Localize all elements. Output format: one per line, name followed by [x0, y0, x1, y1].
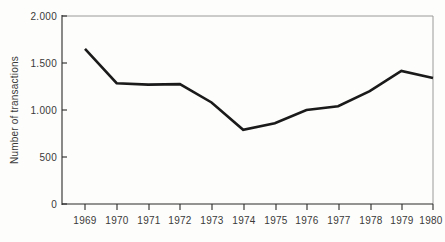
y-tick-label-1500: 1.500	[30, 58, 57, 69]
x-tick-label-1977: 1977	[327, 215, 351, 226]
x-tick-label-1978: 1978	[359, 215, 383, 226]
x-tick-label-1974: 1974	[232, 215, 256, 226]
y-tick-label-1000: 1.000	[30, 105, 57, 116]
y-axis-title: Number of transactions	[9, 56, 20, 164]
x-tick-label-1979: 1979	[390, 215, 414, 226]
x-tick-label-1972: 1972	[168, 215, 192, 226]
transactions-line-series	[85, 49, 433, 130]
y-tick-label-0: 0	[51, 199, 57, 210]
line-chart: 2.000 1.500 1.000 500 0 Number of transa…	[0, 0, 445, 242]
x-tick-label-1973: 1973	[200, 215, 224, 226]
x-tick-label-1971: 1971	[137, 215, 161, 226]
x-tick-label-1976: 1976	[295, 215, 319, 226]
x-tick-label-1970: 1970	[105, 215, 129, 226]
plot-frame	[62, 16, 433, 204]
y-axis-ticks	[62, 16, 67, 204]
y-axis: 2.000 1.500 1.000 500 0 Number of transa…	[9, 11, 67, 210]
y-tick-label-500: 500	[39, 152, 57, 163]
x-axis-ticks	[85, 204, 433, 210]
y-tick-label-2000: 2.000	[30, 11, 57, 22]
x-axis-tick-labels: 1969 1970 1971 1972 1973 1974 1975 1976 …	[73, 215, 443, 226]
y-axis-tick-labels: 2.000 1.500 1.000 500 0	[30, 11, 57, 210]
x-tick-label-1975: 1975	[264, 215, 288, 226]
x-tick-label-1969: 1969	[73, 215, 97, 226]
x-tick-label-1980: 1980	[419, 215, 443, 226]
chart-figure: 2.000 1.500 1.000 500 0 Number of transa…	[0, 0, 445, 242]
x-axis: 1969 1970 1971 1972 1973 1974 1975 1976 …	[62, 204, 443, 226]
